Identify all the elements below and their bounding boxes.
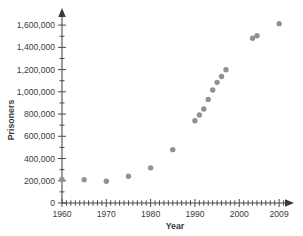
x-tick-label: 1980 (141, 209, 160, 219)
data-point: 1991: 792000 (197, 112, 202, 117)
data-point: 1975: 240000 (126, 174, 131, 179)
chart-canvas: 0200,000400,000600,000800,0001,000,0001,… (0, 0, 303, 236)
data-point: 1992: 846000 (201, 106, 206, 111)
data-point: 2004: 1505000 (254, 33, 259, 38)
y-tick-label: 200,000 (24, 176, 55, 186)
y-tick-label: 1,000,000 (17, 87, 55, 97)
y-tick-label: 400,000 (24, 154, 55, 164)
y-axis-title: Prisoners (6, 100, 16, 141)
x-tick-label: 1990 (185, 209, 204, 219)
x-axis-arrow-icon (285, 199, 294, 207)
x-axis-title: Year (166, 221, 185, 231)
data-point: 1960: 212000 (59, 177, 64, 182)
scatter-chart: 0200,000400,000600,000800,0001,000,0001,… (0, 0, 303, 236)
data-point: 2009: 1613000 (276, 21, 281, 26)
y-tick-label: 0 (50, 198, 55, 208)
data-point: 1970: 196000 (104, 179, 109, 184)
y-axis-tick-labels: 0200,000400,000600,000800,0001,000,0001,… (17, 20, 55, 208)
data-point: 1996: 1138000 (219, 74, 224, 79)
data-point: 1965: 210000 (81, 177, 86, 182)
data-point: 1997: 1198000 (223, 67, 228, 72)
y-tick-label: 1,600,000 (17, 20, 55, 30)
y-axis-arrow-icon (58, 8, 66, 17)
x-tick-label: 2000 (230, 209, 249, 219)
data-point: 1993: 932000 (206, 97, 211, 102)
y-tick-label: 800,000 (24, 109, 55, 119)
y-tick-label: 1,200,000 (17, 65, 55, 75)
data-point: 1980: 316000 (148, 165, 153, 170)
y-tick-label: 1,400,000 (17, 42, 55, 52)
x-tick-label: 1960 (52, 209, 71, 219)
data-point: 1985: 480000 (170, 147, 175, 152)
data-point: 1990: 740000 (192, 118, 197, 123)
data-point-group: 1960: 2120001965: 2100001970: 1960001975… (59, 21, 282, 184)
x-axis-tick-labels: 196019701980199020002009 (52, 209, 288, 219)
y-tick-label: 600,000 (24, 131, 55, 141)
x-tick-label: 1970 (97, 209, 116, 219)
data-point: 1995: 1085000 (214, 80, 219, 85)
data-point: 1994: 1016000 (210, 87, 215, 92)
x-tick-label: 2009 (270, 209, 289, 219)
